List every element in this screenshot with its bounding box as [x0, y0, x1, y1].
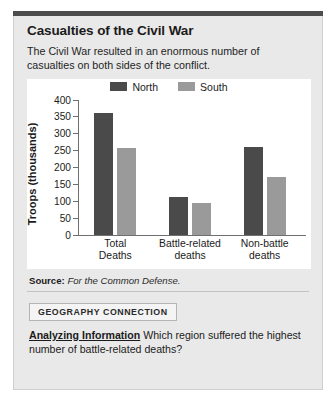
x-axis-line	[78, 235, 306, 236]
y-tick-label: 300	[54, 128, 71, 139]
y-tick-label: 100	[54, 195, 71, 206]
y-tick-label: 0	[65, 229, 71, 240]
y-tick-label: 50	[60, 212, 71, 223]
y-axis-label-text: Troops (thousands)	[26, 122, 38, 225]
bar-south	[192, 203, 211, 235]
y-tick-label: 250	[54, 145, 71, 156]
y-tick-label: 150	[54, 178, 71, 189]
legend-label-north: North	[132, 81, 158, 93]
plot-area: 050100150200250300350400	[78, 100, 302, 235]
legend-swatch-north	[110, 82, 127, 91]
connection-block: GEOGRAPHY CONNECTION Analyzing Informati…	[27, 292, 309, 357]
x-category-label: Non-battledeaths	[227, 238, 302, 263]
legend-swatch-south	[178, 82, 195, 91]
figure-page: Casualties of the Civil War The Civil Wa…	[0, 0, 336, 401]
page-title: Casualties of the Civil War	[27, 23, 309, 39]
figure-card-inner: Casualties of the Civil War The Civil Wa…	[14, 12, 322, 356]
bar-chart: North South Troops (thousands) 050100150…	[27, 79, 311, 269]
source-text: For the Common Defense.	[67, 275, 180, 286]
bar-south	[117, 148, 136, 235]
y-tick-label: 400	[54, 94, 71, 105]
figure-card: Casualties of the Civil War The Civil Wa…	[13, 11, 323, 390]
connection-question: Analyzing Information Which region suffe…	[29, 328, 307, 357]
x-axis-category-labels: TotalDeathsBattle-relateddeathsNon-battl…	[78, 238, 302, 263]
legend-item-north: North	[110, 81, 158, 93]
bar-group	[227, 100, 302, 235]
geography-connection-badge: GEOGRAPHY CONNECTION	[29, 303, 177, 321]
y-tick-label: 350	[54, 111, 71, 122]
legend-item-south: South	[178, 81, 227, 93]
bar-group	[153, 100, 228, 235]
bar-north	[94, 113, 113, 235]
bar-group	[78, 100, 153, 235]
bar-groups	[78, 100, 302, 235]
card-top-rule	[13, 11, 323, 16]
x-category-label: TotalDeaths	[78, 238, 153, 263]
legend-label-south: South	[200, 81, 227, 93]
bar-north	[169, 197, 188, 234]
x-category-label: Battle-relateddeaths	[153, 238, 228, 263]
bar-north	[244, 147, 263, 235]
y-axis-label: Troops (thousands)	[25, 79, 39, 269]
y-tick-mark	[73, 235, 78, 236]
source-line: Source: For the Common Defense.	[27, 275, 309, 292]
chart-legend: North South	[27, 81, 311, 93]
bar-south	[267, 177, 286, 235]
figure-description: The Civil War resulted in an enormous nu…	[27, 44, 309, 73]
source-label: Source:	[29, 275, 65, 286]
y-tick-label: 200	[54, 162, 71, 173]
question-lead: Analyzing Information	[29, 329, 140, 341]
